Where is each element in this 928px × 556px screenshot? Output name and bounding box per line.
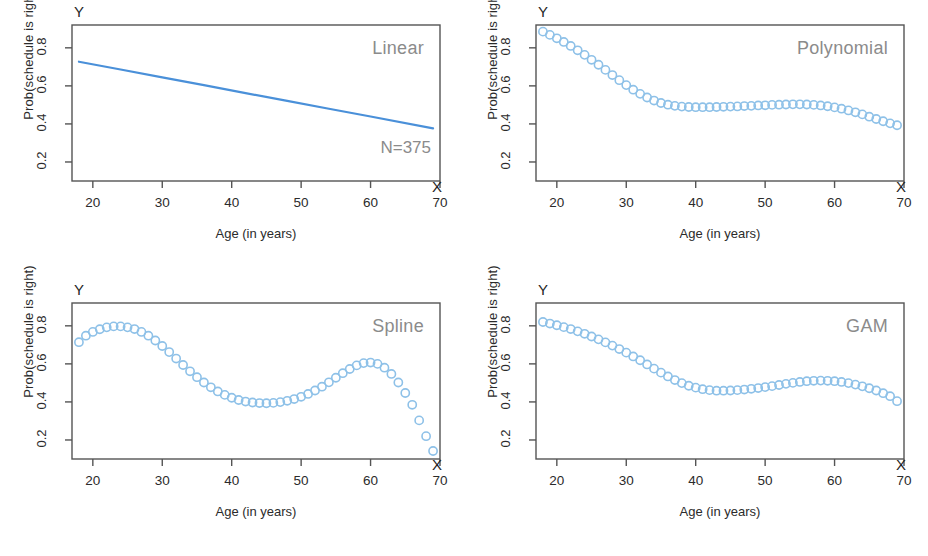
data-point-marker <box>75 338 83 346</box>
y-axis-marker: Y <box>74 281 84 298</box>
x-tick-label: 70 <box>420 195 460 210</box>
y-tick-label: 0.2 <box>34 421 49 455</box>
x-axis-title: Age (in years) <box>156 226 356 241</box>
y-tick-label: 0.4 <box>34 383 49 417</box>
panel-title: Linear <box>372 38 424 59</box>
x-axis-marker: X <box>896 178 906 195</box>
x-tick-label: 20 <box>73 195 113 210</box>
x-axis-title: Age (in years) <box>620 226 820 241</box>
y-tick-label: 0.2 <box>34 143 49 177</box>
chart-panel-linear: Prob(schedule is right)0.20.40.60.820304… <box>0 0 464 278</box>
x-tick-label: 40 <box>212 195 252 210</box>
x-tick-label: 20 <box>537 195 577 210</box>
x-tick-label: 30 <box>606 195 646 210</box>
y-tick-label: 0.8 <box>34 29 49 63</box>
y-tick-label: 0.8 <box>498 29 513 63</box>
y-tick-label: 0.8 <box>498 307 513 341</box>
x-tick-label: 40 <box>676 473 716 488</box>
y-axis-marker: Y <box>538 281 548 298</box>
data-point-marker <box>165 348 173 356</box>
data-point-marker <box>408 401 416 409</box>
y-tick-label: 0.6 <box>498 345 513 379</box>
x-tick-label: 20 <box>73 473 113 488</box>
data-point-marker <box>172 354 180 362</box>
x-axis-title: Age (in years) <box>620 504 820 519</box>
x-tick-label: 70 <box>884 195 924 210</box>
data-point-marker <box>401 389 409 397</box>
x-tick-label: 50 <box>281 195 321 210</box>
y-tick-label: 0.2 <box>498 143 513 177</box>
figure-panel-grid: Prob(schedule is right)0.20.40.60.820304… <box>0 0 928 556</box>
data-point-marker <box>394 378 402 386</box>
data-point-marker <box>387 370 395 378</box>
data-point-marker <box>422 432 430 440</box>
panel-title: Spline <box>372 316 424 337</box>
x-tick-label: 50 <box>745 473 785 488</box>
x-tick-label: 20 <box>537 473 577 488</box>
data-series <box>79 62 433 129</box>
x-axis-marker: X <box>432 456 442 473</box>
data-point-marker <box>893 397 901 405</box>
x-tick-label: 30 <box>142 195 182 210</box>
data-point-marker <box>179 361 187 369</box>
trend-line <box>79 62 433 129</box>
x-axis-marker: X <box>432 178 442 195</box>
y-tick-label: 0.6 <box>34 345 49 379</box>
x-axis-title: Age (in years) <box>156 504 356 519</box>
x-tick-label: 70 <box>420 473 460 488</box>
x-tick-label: 50 <box>745 195 785 210</box>
data-point-marker <box>186 367 194 375</box>
panel-title: Polynomial <box>797 38 888 59</box>
x-tick-label: 60 <box>815 473 855 488</box>
x-tick-label: 30 <box>606 473 646 488</box>
x-tick-label: 50 <box>281 473 321 488</box>
data-point-marker <box>429 447 437 455</box>
chart-panel-polynomial: Prob(schedule is right)0.20.40.60.820304… <box>464 0 928 278</box>
y-tick-label: 0.4 <box>498 383 513 417</box>
x-tick-label: 60 <box>815 195 855 210</box>
x-tick-label: 40 <box>212 473 252 488</box>
x-tick-label: 40 <box>676 195 716 210</box>
sample-size-annotation: N=375 <box>380 138 431 158</box>
chart-panel-spline: Prob(schedule is right)0.20.40.60.820304… <box>0 278 464 556</box>
x-tick-label: 60 <box>351 195 391 210</box>
data-series <box>75 322 437 455</box>
x-tick-label: 70 <box>884 473 924 488</box>
y-tick-label: 0.4 <box>498 105 513 139</box>
y-axis-marker: Y <box>538 3 548 20</box>
y-tick-label: 0.6 <box>34 67 49 101</box>
data-point-marker <box>380 364 388 372</box>
x-tick-label: 30 <box>142 473 182 488</box>
y-tick-label: 0.2 <box>498 421 513 455</box>
y-tick-label: 0.8 <box>34 307 49 341</box>
y-tick-label: 0.6 <box>498 67 513 101</box>
x-tick-label: 60 <box>351 473 391 488</box>
y-tick-label: 0.4 <box>34 105 49 139</box>
chart-panel-gam: Prob(schedule is right)0.20.40.60.820304… <box>464 278 928 556</box>
x-axis-marker: X <box>896 456 906 473</box>
panel-title: GAM <box>846 316 888 337</box>
y-axis-marker: Y <box>74 3 84 20</box>
data-point-marker <box>415 416 423 424</box>
data-point-marker <box>158 342 166 350</box>
